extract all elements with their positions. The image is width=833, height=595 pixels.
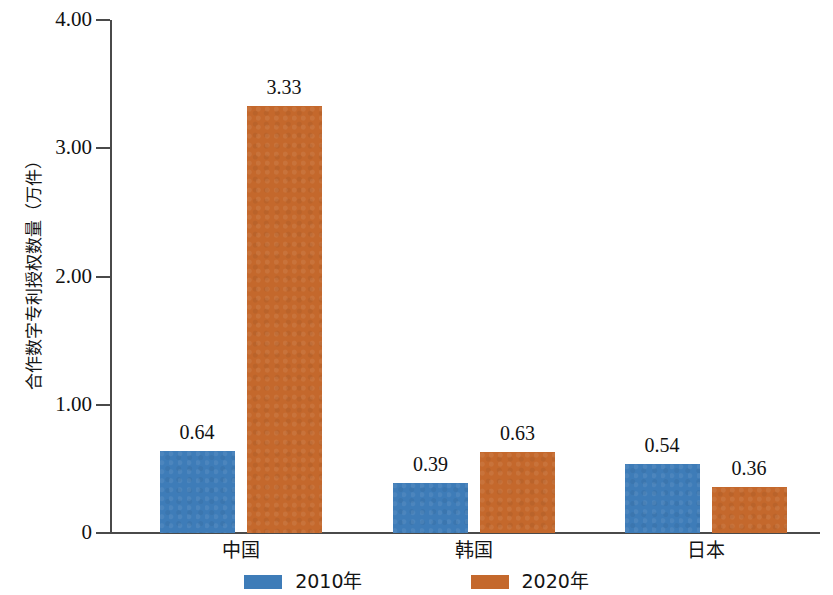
legend-item-2010年[interactable]: 2010年 (244, 572, 362, 591)
y-tick-label: 2.00 (22, 266, 92, 287)
category-label-韩国: 韩国 (414, 541, 534, 560)
bar-日本-2020年[interactable] (712, 487, 787, 533)
bar-韩国-2020年[interactable] (480, 452, 555, 533)
y-tick-mark (96, 532, 110, 534)
y-tick-label-wrap: 4.00 (0, 20, 92, 21)
legend-swatch-icon (244, 575, 282, 589)
y-tick-label: 0 (22, 522, 92, 543)
bar-value-label: 0.63 (464, 423, 571, 443)
bar-中国-2010年[interactable] (160, 451, 235, 533)
bar-value-label: 3.33 (231, 77, 338, 97)
y-tick-mark (96, 19, 110, 21)
category-label-中国: 中国 (181, 541, 301, 560)
y-tick-label-wrap: 0 (0, 533, 92, 534)
y-tick-label-wrap: 1.00 (0, 405, 92, 406)
y-tick-label: 3.00 (22, 137, 92, 158)
legend-label: 2020年 (522, 572, 589, 591)
y-tick-mark (96, 276, 110, 278)
y-tick-mark (96, 147, 110, 149)
bar-日本-2010年[interactable] (625, 464, 700, 533)
legend-label: 2010年 (295, 572, 362, 591)
category-label-日本: 日本 (646, 541, 766, 560)
bar-value-label: 0.36 (696, 458, 803, 478)
y-tick-mark (96, 404, 110, 406)
y-tick-label-wrap: 2.00 (0, 277, 92, 278)
bar-chart: 合作数字专利授权数量（万件） 01.002.003.004.00 0.643.3… (0, 0, 833, 595)
bar-韩国-2010年[interactable] (393, 483, 468, 533)
bar-value-label: 0.54 (609, 435, 716, 455)
y-tick-label: 4.00 (22, 9, 92, 30)
plot-area: 0.643.330.390.630.540.36 (110, 20, 820, 533)
legend-swatch-icon (471, 575, 509, 589)
legend-item-2020年[interactable]: 2020年 (471, 572, 589, 591)
bar-value-label: 0.64 (144, 422, 251, 442)
chart-legend: 2010年2020年 (0, 572, 833, 591)
y-tick-label-wrap: 3.00 (0, 148, 92, 149)
bar-value-label: 0.39 (377, 454, 484, 474)
bar-中国-2020年[interactable] (247, 106, 322, 533)
y-tick-label: 1.00 (22, 394, 92, 415)
